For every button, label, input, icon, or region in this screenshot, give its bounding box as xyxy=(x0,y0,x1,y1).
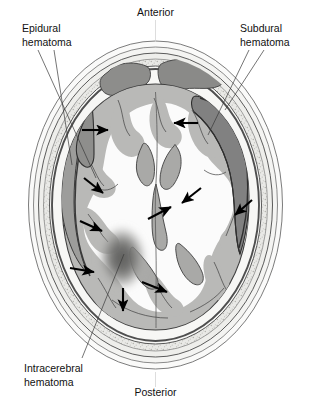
brain xyxy=(61,84,250,330)
orientation-label-posterior: Posterior xyxy=(134,386,177,398)
subdural-label-line2: hematoma xyxy=(240,36,290,48)
figure-root: Anterior Posterior Epidural hematoma Sub… xyxy=(0,0,311,407)
intracerebral-label-line1: Intracerebral xyxy=(24,362,83,374)
intracerebral-label-line2: hematoma xyxy=(24,376,74,388)
annotation-intracerebral: Intracerebral hematoma xyxy=(24,362,83,388)
epidural-label-line2: hematoma xyxy=(22,36,72,48)
orientation-label-anterior: Anterior xyxy=(137,6,174,18)
head-cross-section-diagram: Anterior Posterior Epidural hematoma Sub… xyxy=(0,0,311,407)
intracerebral-hematoma xyxy=(97,225,147,291)
annotation-epidural: Epidural hematoma xyxy=(22,22,72,48)
annotation-subdural: Subdural hematoma xyxy=(240,22,290,48)
epidural-label-line1: Epidural xyxy=(22,22,61,34)
subdural-label-line1: Subdural xyxy=(240,22,282,34)
